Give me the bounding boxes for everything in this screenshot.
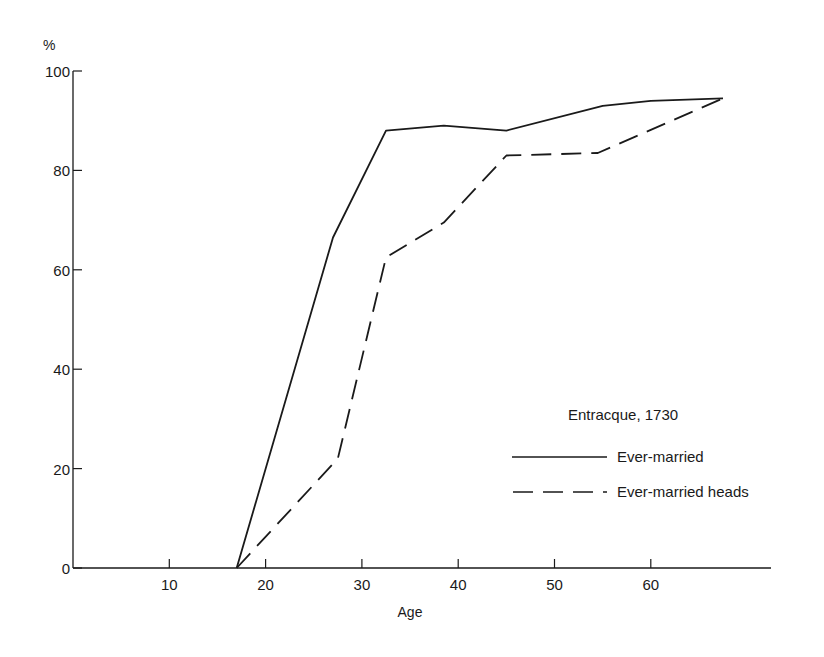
legend-label-ever-married: Ever-married [617,448,704,465]
y-tick-label: 40 [53,361,70,378]
x-tick-label: 60 [642,576,659,593]
y-axis-ticks: 020406080100 [45,63,82,577]
y-tick-label: 0 [62,560,70,577]
y-tick-label: 80 [53,162,70,179]
x-tick-label: 30 [354,576,371,593]
x-tick-label: 10 [161,576,178,593]
legend: Entracque, 1730 Ever-married Ever-marrie… [512,406,749,500]
legend-label-ever-married-heads: Ever-married heads [617,483,749,500]
x-axis-title: Age [398,604,423,620]
x-tick-label: 50 [546,576,563,593]
line-chart: 020406080100 102030405060 % Age Entracqu… [0,0,824,657]
legend-title: Entracque, 1730 [568,406,678,423]
y-tick-label: 100 [45,63,70,80]
x-axis-ticks: 102030405060 [161,559,659,593]
x-tick-label: 40 [450,576,467,593]
y-axis-unit-label: % [43,37,55,53]
y-tick-label: 60 [53,262,70,279]
y-tick-label: 20 [53,461,70,478]
x-tick-label: 20 [257,576,274,593]
